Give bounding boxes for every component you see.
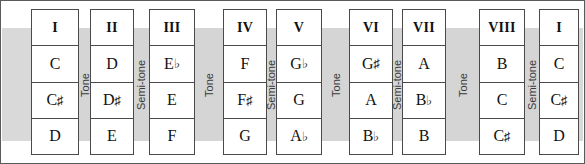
scale-degree-column: VIG♯AB♭: [349, 9, 393, 155]
scale-degree-label: IV: [224, 10, 266, 46]
note-name-cell: C: [480, 83, 524, 119]
note-name-cell: F: [150, 119, 194, 154]
scale-degree-label: II: [91, 10, 133, 46]
note-name-cell: C: [540, 46, 578, 82]
scale-degree-column: ICC♯D: [31, 9, 79, 155]
interval-gap-5: Tone: [322, 28, 349, 141]
interval-gap-8: Semi-tone: [525, 28, 539, 141]
scale-degree-label: I: [32, 10, 78, 46]
interval-gap-label: Semi-tone: [136, 59, 148, 109]
scale-degree-label: III: [150, 10, 194, 46]
interval-gap-label: Tone: [203, 73, 215, 97]
interval-gap-label: Tone: [329, 73, 341, 97]
scale-degree-column: ICC♯D: [539, 9, 579, 155]
note-name-cell: D♯: [91, 83, 133, 119]
note-name-cell: G♯: [350, 46, 392, 82]
scale-degree-column: VG♭GA♭: [276, 9, 322, 155]
note-name-cell: C♯: [480, 119, 524, 154]
note-name-cell: B: [403, 119, 445, 154]
note-name-cell: D: [540, 119, 578, 154]
interval-gap-label: Semi-tone: [526, 59, 538, 109]
note-name-cell: G: [277, 83, 321, 119]
note-name-cell: A: [350, 83, 392, 119]
note-name-cell: F♯: [224, 83, 266, 119]
note-name-cell: E: [91, 119, 133, 154]
interval-gap-1: Tone: [79, 28, 90, 141]
note-name-cell: E: [150, 83, 194, 119]
note-name-cell: A: [403, 46, 445, 82]
scale-degree-column: IVFF♯G: [223, 9, 267, 155]
note-name-cell: C♯: [540, 83, 578, 119]
scale-degree-column: VIIAB♭B: [402, 9, 446, 155]
note-name-cell: B♭: [350, 119, 392, 154]
scale-degree-column: IIIE♭EF: [149, 9, 195, 155]
scale-degree-column: VIIIBCC♯: [479, 9, 525, 155]
note-name-cell: C: [32, 46, 78, 82]
scale-degree-label: I: [540, 10, 578, 46]
note-name-cell: G♭: [277, 46, 321, 82]
note-name-cell: G: [224, 119, 266, 154]
note-name-cell: D: [91, 46, 133, 82]
scale-degree-label: VII: [403, 10, 445, 46]
scale-degree-label: VI: [350, 10, 392, 46]
note-name-cell: B♭: [403, 83, 445, 119]
note-name-cell: C♯: [32, 83, 78, 119]
interval-gap-6: Semi-tone: [393, 28, 402, 141]
interval-gap-7: Tone: [446, 28, 479, 141]
scale-degree-label: V: [277, 10, 321, 46]
interval-gap-label: Tone: [79, 73, 91, 97]
note-name-cell: B: [480, 46, 524, 82]
note-name-cell: D: [32, 119, 78, 154]
interval-gap-label: Tone: [456, 73, 468, 97]
note-name-cell: A♭: [277, 119, 321, 154]
scale-degree-column: IIDD♯E: [90, 9, 134, 155]
interval-gap-4: Semi-tone: [267, 28, 276, 141]
interval-gap-2: Semi-tone: [134, 28, 149, 141]
interval-gap-3: Tone: [195, 28, 223, 141]
scale-degree-label: VIII: [480, 10, 524, 46]
note-name-cell: F: [224, 46, 266, 82]
tone-semitone-diagram: ToneSemi-toneToneSemi-toneToneSemi-toneT…: [0, 0, 585, 164]
note-name-cell: E♭: [150, 46, 194, 82]
